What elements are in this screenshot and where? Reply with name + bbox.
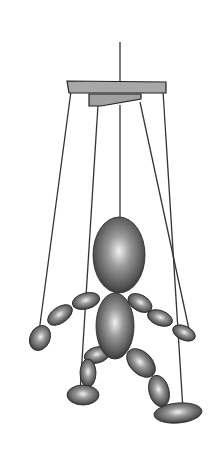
puppet-body xyxy=(25,217,202,425)
marionette-illustration: Grayscale illustration of a marionette m… xyxy=(0,0,218,461)
string-left-hand xyxy=(39,91,71,332)
left-hand xyxy=(25,322,54,354)
right-shin xyxy=(145,373,173,409)
left-forearm xyxy=(44,300,76,329)
marionette-svg xyxy=(0,0,218,461)
torso xyxy=(96,293,134,359)
control-bar xyxy=(67,81,166,106)
left-shin xyxy=(80,359,96,387)
left-upper-arm xyxy=(70,290,101,313)
right-hand xyxy=(170,322,198,345)
left-foot xyxy=(67,385,99,405)
string-right-foot xyxy=(163,91,183,410)
head xyxy=(93,217,145,293)
